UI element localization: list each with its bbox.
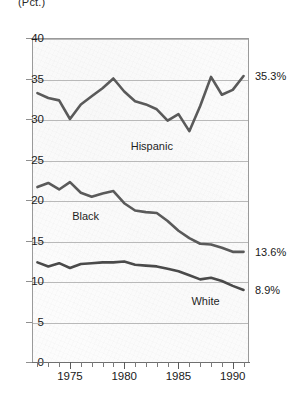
line-black [37, 182, 243, 252]
end-label-black: 13.6% [255, 246, 286, 258]
series-label-white: White [191, 295, 219, 307]
end-label-white: 8.9% [255, 284, 280, 296]
series-label-black: Black [72, 210, 99, 222]
poverty-rate-line-chart: (Pct.) 0510152025303540 1975198019851990… [0, 0, 297, 393]
series-label-hispanic: Hispanic [131, 140, 173, 152]
end-label-hispanic: 35.3% [255, 70, 286, 82]
series-lines [0, 0, 297, 393]
line-hispanic [37, 76, 243, 131]
line-white [37, 262, 243, 290]
